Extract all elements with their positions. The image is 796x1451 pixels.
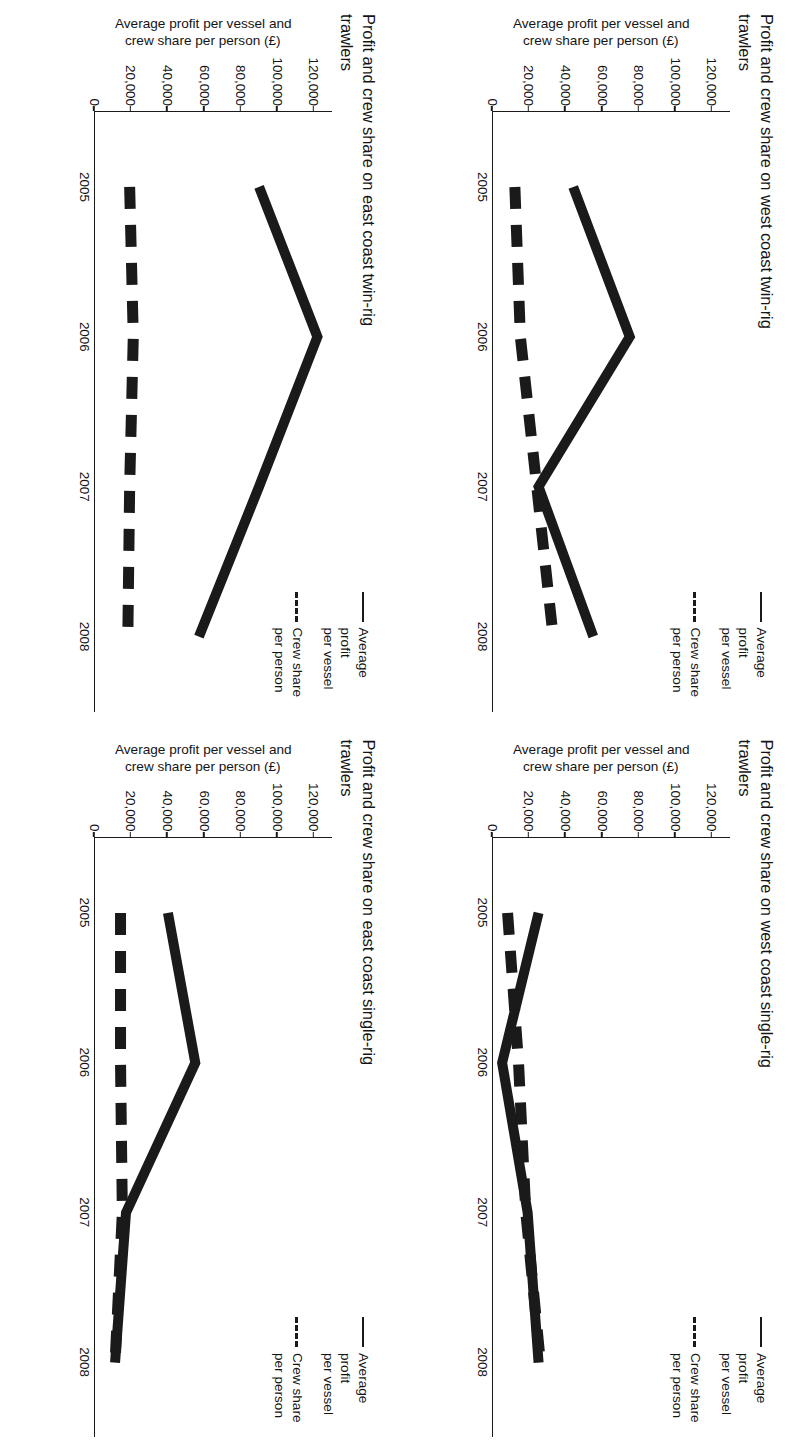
x-axis-ticks: 2005200620072008	[473, 838, 493, 1438]
y-tick-label: 20,000	[521, 791, 536, 832]
y-tick-label: 0	[484, 824, 499, 831]
plot-area: Average profit per vessel and crew share…	[472, 14, 730, 712]
x-tick-label: 2008	[77, 1347, 92, 1377]
y-axis-label: Average profit per vessel and crew share…	[74, 740, 332, 775]
y-tick-label: 100,000	[269, 783, 284, 831]
y-tick-label: 100,000	[667, 783, 682, 831]
y-tick-label: 40,000	[558, 791, 573, 832]
y-axis-ticks: 020,00040,00060,00080,000100,000120,000	[74, 775, 332, 837]
series-lines	[95, 838, 332, 1438]
x-tick-label: 2008	[77, 622, 92, 652]
solid-line-key-icon	[754, 1317, 770, 1347]
x-tick-label: 2006	[475, 322, 490, 352]
x-tick-label: 2006	[77, 1047, 92, 1077]
y-tick-label: 40,000	[160, 65, 175, 106]
figure-title: Profit and crew share on west coast sing…	[734, 740, 778, 1070]
y-tick-label: 80,000	[233, 791, 248, 832]
figure-title: Profit and crew share on east coast twin…	[336, 14, 380, 344]
y-tick-label: 60,000	[196, 791, 211, 832]
y-tick-label: 120,000	[306, 58, 321, 106]
y-tick-label: 60,000	[594, 65, 609, 106]
plot-area: Average profit per vessel and crew share…	[74, 740, 332, 1438]
plot-area: Average profit per vessel and crew share…	[472, 740, 730, 1438]
x-tick-label: 2005	[475, 172, 490, 202]
y-tick-label: 20,000	[123, 791, 138, 832]
y-tick-label: 80,000	[233, 65, 248, 106]
series-lines	[493, 112, 730, 712]
y-tick-label: 100,000	[667, 58, 682, 106]
y-tick-label: 0	[484, 99, 499, 106]
solid-line-key-icon	[754, 592, 770, 622]
y-tick-label: 120,000	[704, 783, 719, 831]
crew-share-line	[115, 912, 122, 1362]
y-tick-label: 80,000	[631, 791, 646, 832]
x-tick-label: 2007	[475, 1197, 490, 1227]
y-tick-label: 120,000	[704, 58, 719, 106]
y-tick-label: 60,000	[196, 65, 211, 106]
y-tick-label: 0	[86, 99, 101, 106]
series-lines	[493, 838, 730, 1438]
y-tick-label: 20,000	[123, 65, 138, 106]
y-tick-label: 80,000	[631, 65, 646, 106]
x-tick-label: 2005	[77, 172, 92, 202]
x-axis-ticks: 2005200620072008	[473, 112, 493, 712]
average-profit-line	[199, 187, 318, 637]
solid-line-key-icon	[356, 592, 372, 622]
x-tick-label: 2006	[475, 1047, 490, 1077]
series-lines	[95, 112, 332, 712]
y-tick-label: 0	[86, 824, 101, 831]
y-axis-ticks: 020,00040,00060,00080,000100,000120,000	[472, 775, 730, 837]
x-tick-label: 2006	[77, 322, 92, 352]
x-tick-label: 2007	[77, 1197, 92, 1227]
average-profit-line	[538, 187, 629, 637]
x-tick-label: 2007	[77, 472, 92, 502]
x-axis-ticks: 2005200620072008	[75, 112, 95, 712]
x-axis-ticks: 2005200620072008	[75, 838, 95, 1438]
y-tick-label: 100,000	[269, 58, 284, 106]
y-axis-ticks: 020,00040,00060,00080,000100,000120,000	[472, 49, 730, 111]
scanned-page: Profit and crew share on west coast twin…	[0, 0, 796, 1451]
figure-west-coast-single-rig: Profit and crew share on west coast sing…	[398, 726, 796, 1451]
y-tick-label: 120,000	[306, 783, 321, 831]
y-tick-label: 40,000	[160, 791, 175, 832]
x-tick-label: 2005	[77, 898, 92, 928]
average-profit-line	[115, 912, 195, 1362]
y-tick-label: 40,000	[558, 65, 573, 106]
axes: 2005200620072008	[492, 837, 730, 1438]
figure-east-coast-single-rig: Profit and crew share on east coast sing…	[0, 726, 398, 1451]
y-axis-label: Average profit per vessel and crew share…	[472, 14, 730, 49]
figure-east-coast-twin-rig: Profit and crew share on east coast twin…	[0, 0, 398, 726]
x-tick-label: 2008	[475, 1347, 490, 1377]
solid-line-key-icon	[356, 1317, 372, 1347]
y-tick-label: 20,000	[521, 65, 536, 106]
x-tick-label: 2005	[475, 898, 490, 928]
figure-title: Profit and crew share on west coast twin…	[734, 14, 778, 344]
axes: 2005200620072008	[492, 111, 730, 712]
figure-title: Profit and crew share on east coast sing…	[336, 740, 380, 1070]
y-tick-label: 60,000	[594, 791, 609, 832]
y-axis-ticks: 020,00040,00060,00080,000100,000120,000	[74, 49, 332, 111]
crew-share-line	[128, 187, 133, 637]
figure-west-coast-twin-rig: Profit and crew share on west coast twin…	[398, 0, 796, 726]
axes: 2005200620072008	[94, 837, 332, 1438]
axes: 2005200620072008	[94, 111, 332, 712]
plot-area: Average profit per vessel and crew share…	[74, 14, 332, 712]
x-tick-label: 2007	[475, 472, 490, 502]
crew-share-line	[515, 187, 553, 637]
y-axis-label: Average profit per vessel and crew share…	[74, 14, 332, 49]
y-axis-label: Average profit per vessel and crew share…	[472, 740, 730, 775]
x-tick-label: 2008	[475, 622, 490, 652]
